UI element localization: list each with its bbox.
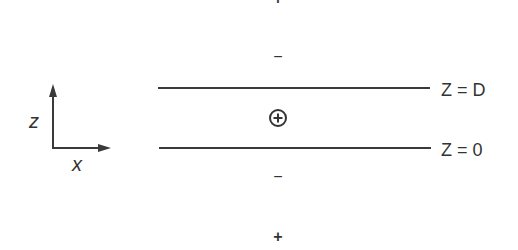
plane-label-lower: Z = 0	[441, 141, 483, 159]
z-axis-arrow-icon	[49, 84, 57, 148]
plane-line-upper	[158, 87, 430, 89]
charge-bottom-inner: −	[268, 169, 288, 185]
charge-top-outer: +	[268, 0, 288, 7]
charge-top-inner: −	[268, 49, 288, 65]
circled-plus-icon	[268, 108, 288, 128]
x-axis-label: x	[72, 154, 82, 174]
z-axis-label: z	[29, 111, 39, 131]
charge-center-circled-plus-icon	[268, 108, 288, 131]
coordinate-axes	[0, 0, 130, 180]
charge-bottom-outer: +	[268, 229, 288, 245]
plane-label-upper: Z = D	[441, 81, 486, 99]
x-axis-arrow-icon	[52, 144, 111, 152]
plane-line-lower	[159, 147, 431, 149]
